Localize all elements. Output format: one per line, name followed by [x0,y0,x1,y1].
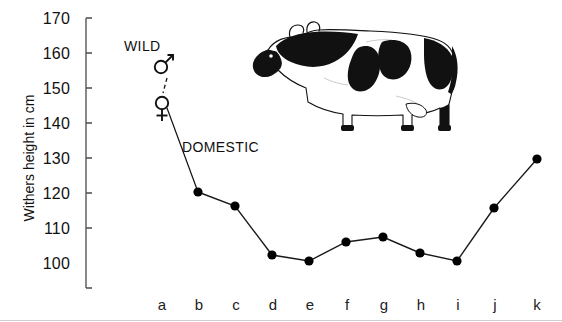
data-point-d [267,250,276,259]
domestic-series-line [198,159,537,261]
female-symbol-marker [156,97,168,121]
data-point-e [304,256,313,265]
data-point-f [341,237,350,246]
data-point-h [415,248,424,257]
data-point-i [452,256,461,265]
data-point-c [230,201,239,210]
data-point-j [489,203,498,212]
chart-figure: Withers height in cm 170 160 150 140 130… [0,0,562,322]
y-axis-ticks [86,18,92,288]
domestic-series-markers [193,154,541,265]
data-point-b [193,187,202,196]
wild-connector-line [163,78,167,93]
domestic-leader-line [167,108,198,192]
male-symbol-marker [155,55,173,73]
data-point-k [532,154,541,163]
bottom-divider [0,320,562,321]
data-point-g [378,232,387,241]
